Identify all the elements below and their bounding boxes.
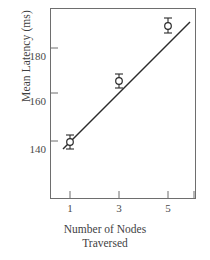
marker-open-circle-3 — [165, 23, 172, 30]
y-tick-label-group: 180 160 140 — [14, 8, 46, 199]
x-axis-label: Number of Nodes Traversed — [0, 222, 210, 250]
y-tick-label-160: 160 — [16, 96, 46, 107]
x-axis-label-line2: Traversed — [0, 236, 210, 250]
x-tick-marks — [70, 191, 194, 198]
x-tick-label-group: 1 3 5 — [50, 200, 196, 216]
y-tick-marks — [51, 48, 58, 141]
marker-open-circle-1 — [67, 139, 74, 146]
data-point-1 — [66, 135, 74, 149]
x-tick-label-5: 5 — [158, 202, 178, 214]
data-point-2 — [115, 74, 123, 88]
x-axis-label-line1: Number of Nodes — [0, 222, 210, 236]
plot-canvas — [51, 9, 195, 198]
plot-area — [50, 8, 196, 199]
chart-figure: Mean Latency (ms) 180 160 140 — [0, 0, 210, 260]
x-tick-label-1: 1 — [60, 202, 80, 214]
data-point-3 — [164, 18, 172, 33]
y-tick-label-180: 180 — [16, 51, 46, 62]
y-tick-label-140: 140 — [16, 144, 46, 155]
trend-line — [63, 22, 190, 149]
x-tick-label-3: 3 — [109, 202, 129, 214]
marker-open-circle-2 — [116, 78, 123, 85]
